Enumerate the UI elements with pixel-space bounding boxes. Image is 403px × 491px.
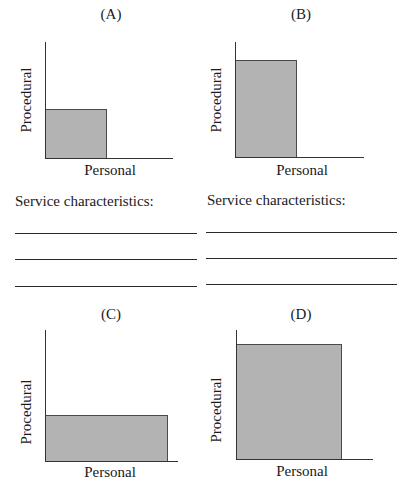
panel-b-x-label: Personal [276,162,328,179]
panel-b-y-label: Procedural [208,68,225,133]
panel-a-x-label: Personal [84,162,136,179]
cropped-text-remnant [0,0,403,3]
panel-c-x-axis [45,461,178,462]
blank-line-left-1 [15,233,197,234]
panel-d-x-axis [236,459,373,460]
panel-d-area [237,344,342,459]
service-characteristics-heading-right: Service characteristics: [207,192,346,209]
panel-b-x-axis [235,157,364,158]
panel-d-y-label: Procedural [208,378,225,443]
blank-line-left-3 [15,286,197,287]
panel-d-title: (D) [291,306,312,323]
panel-a-x-axis [45,158,173,159]
panel-c-title: (C) [101,306,121,323]
panel-b-title: (B) [291,6,311,23]
panel-a-area [46,109,107,158]
blank-line-right-1 [206,232,397,233]
blank-line-right-3 [206,284,397,285]
panel-d-x-label: Personal [276,463,328,480]
panel-c-y-label: Procedural [18,380,35,445]
panel-b-y-axis [235,42,236,158]
panel-b-area [236,60,297,157]
panel-a-y-label: Procedural [18,68,35,133]
panel-c-y-axis [45,330,46,462]
panel-a-y-axis [45,42,46,159]
panel-c-x-label: Personal [84,464,136,481]
panel-a-title: (A) [101,6,122,23]
service-characteristics-heading-left: Service characteristics: [15,193,154,210]
panel-d-y-axis [236,330,237,460]
panel-c-area [46,415,168,461]
blank-line-right-2 [206,258,397,259]
blank-line-left-2 [15,259,197,260]
